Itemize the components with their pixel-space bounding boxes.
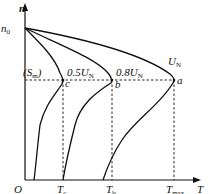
curve-0.8un <box>25 28 112 180</box>
motor-characteristic-diagram: n n0 (Sm) 0.5UN 0.8UN UN a b c O Tc Tb T… <box>0 0 215 194</box>
tmax-label: Tmax <box>166 183 185 194</box>
y-axis-label: n <box>19 2 25 14</box>
n0-label: n0 <box>1 22 11 36</box>
axes <box>22 3 201 183</box>
origin-label: O <box>14 183 22 194</box>
guide-lines <box>25 80 174 180</box>
slip-label: (Sm) <box>23 66 42 80</box>
point-b-label: b <box>115 78 121 90</box>
curve-0.5un <box>25 28 63 180</box>
tb-label: Tb <box>106 183 116 194</box>
tc-label: Tc <box>57 183 66 194</box>
point-a-label: a <box>177 74 183 86</box>
curve-label-un: UN <box>168 55 181 69</box>
x-axis-label: T <box>197 183 204 194</box>
point-a-marker <box>173 79 176 82</box>
point-c-marker <box>62 79 65 82</box>
point-c-label: c <box>65 77 70 89</box>
curve-label-0.5un: 0.5UN <box>67 66 94 80</box>
curves <box>25 28 174 180</box>
point-b-marker <box>111 79 114 82</box>
